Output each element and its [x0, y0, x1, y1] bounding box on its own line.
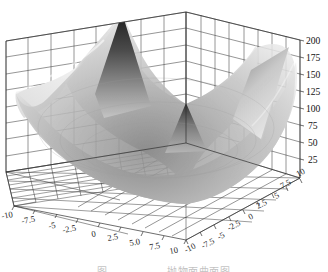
- z-tick-label-200: 200: [306, 35, 321, 46]
- z-tick-label-175: 175: [306, 52, 321, 63]
- figure-caption: 图 抛物面曲面图: [0, 263, 328, 272]
- y-tick-label--7.5: -7.5: [199, 236, 216, 251]
- x-tick-label--2.5: -2.5: [61, 223, 76, 235]
- plot-canvas: 200 175 150 125 100 75 50 25: [0, 0, 328, 272]
- z-axis-ticks: [300, 40, 304, 160]
- x-tick-label--10: -10: [0, 209, 13, 221]
- z-tick-label-75: 75: [308, 120, 318, 131]
- z-tick-label-150: 150: [306, 69, 321, 80]
- x-tick-label-2.5: 2.5: [106, 231, 118, 243]
- y-tick-label--2.5: -2.5: [225, 218, 242, 233]
- z-tick-label-25: 25: [308, 154, 318, 165]
- x-tick-label-10: 10: [168, 245, 178, 256]
- z-tick-label-125: 125: [306, 86, 321, 97]
- x-tick-label-7.5: 7.5: [148, 240, 160, 252]
- z-axis: 200 175 150 125 100 75 50 25: [300, 35, 321, 165]
- x-tick-label--5: -5: [47, 220, 56, 231]
- z-tick-label-50: 50: [308, 137, 318, 148]
- surface-plot-3d: 200 175 150 125 100 75 50 25: [0, 0, 328, 272]
- z-tick-label-100: 100: [306, 103, 321, 114]
- x-axis: -10 -7.5 -5 -2.5 0 2.5 5.0 7.5 10: [0, 206, 186, 256]
- surface-mesh: [15, 13, 297, 204]
- x-tick-label--7.5: -7.5: [20, 214, 35, 226]
- x-tick-label-5.0: 5.0: [128, 236, 140, 248]
- figure-root: 200 175 150 125 100 75 50 25: [0, 0, 328, 272]
- y-tick-label--5: -5: [215, 230, 226, 242]
- y-tick-label-0: 0: [246, 211, 254, 222]
- y-tick-label-5: 5: [272, 190, 280, 201]
- x-tick-label-0: 0: [90, 228, 96, 239]
